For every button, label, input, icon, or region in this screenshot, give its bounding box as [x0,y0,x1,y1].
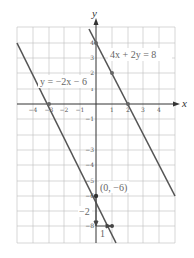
point-neg3-0 [47,102,51,106]
y-tick: −3 [85,146,94,153]
x-tick: −1 [76,106,85,113]
equation-label-y-neg2x-6: y = −2x − 6 [40,76,87,87]
x-tick: −4 [29,106,38,113]
point-1-2 [110,71,114,75]
x-axis-arrow-icon [173,102,180,107]
y-tick: −1 [85,115,94,122]
y-tick: 3 [90,54,94,61]
x-tick: 3 [141,106,145,113]
y-axis-arrow-icon [94,18,99,25]
point-2-0 [126,102,130,106]
run-label: 1 [100,228,105,239]
point-label-0-neg6: (0, −6) [100,182,127,194]
rise-label: −2 [79,206,90,217]
axes: x y [17,7,187,243]
y-tick: 4 [90,39,94,46]
x-tick: 1 [110,106,114,113]
coordinate-graph: x y −4 −3 −2 −1 1 2 3 4 4 3 2 1 −1 −3 −4… [0,0,194,258]
x-tick: −2 [60,106,69,113]
y-axis-label: y [91,7,97,19]
y-tick: −4 [85,161,94,168]
x-tick: 4 [157,106,161,113]
point-0-neg6 [94,194,98,198]
x-axis-label: x [181,97,187,109]
y-tick-labels: 4 3 2 1 −1 −3 −4 −5 −6 −8 [85,39,94,229]
y-tick: −8 [85,222,94,229]
rise-arrowhead-icon [94,221,98,226]
run-arrowhead-icon [106,224,111,228]
point-0-4 [94,41,98,45]
y-tick: 2 [90,69,94,76]
equation-label-4x-2y-8: 4x + 2y = 8 [110,49,156,60]
